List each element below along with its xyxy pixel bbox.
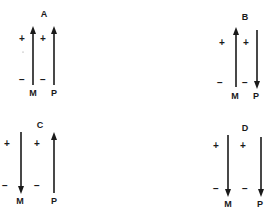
- panel-d: D + + − − M P: [213, 123, 264, 209]
- panel-title: C: [37, 120, 44, 130]
- minus-sign: −: [217, 77, 223, 88]
- arrow-down-icon: [254, 30, 260, 89]
- minus-sign: −: [242, 183, 248, 194]
- plus-sign: +: [213, 140, 219, 151]
- plus-sign: +: [34, 138, 40, 149]
- minus-sign: −: [213, 183, 219, 194]
- arrow-up-icon: [51, 132, 57, 193]
- plus-sign: +: [40, 33, 46, 44]
- plus-sign: +: [4, 138, 10, 149]
- arrow-label-m: M: [29, 88, 37, 98]
- arrow-down-icon: [225, 135, 231, 197]
- plus-sign: +: [219, 37, 225, 48]
- minus-sign: −: [34, 180, 40, 191]
- arrow-up-icon: [30, 26, 36, 85]
- polarity-diagram: A + + − − M P B + + − − M P: [0, 0, 268, 209]
- plus-sign: +: [240, 140, 246, 151]
- arrow-label-p: P: [51, 88, 57, 98]
- plus-sign: +: [243, 37, 249, 48]
- panel-title: D: [242, 123, 249, 133]
- panel-b: B + + − − M P: [217, 12, 260, 101]
- panel-c: C + + − − M P: [2, 120, 57, 206]
- arrow-up-icon: [233, 27, 239, 87]
- arrow-label-p: P: [253, 91, 259, 101]
- arrow-up-icon: [51, 26, 57, 85]
- minus-sign: −: [19, 74, 25, 85]
- arrow-label-m: M: [224, 199, 232, 209]
- arrow-label-m: M: [16, 196, 24, 206]
- speck: [22, 51, 23, 52]
- minus-sign: −: [242, 77, 248, 88]
- panel-a: A + + − − M P: [19, 9, 57, 98]
- arrow-label-p: P: [257, 199, 263, 209]
- minus-sign: −: [2, 180, 8, 191]
- panel-title: B: [242, 12, 249, 22]
- minus-sign: −: [40, 74, 46, 85]
- plus-sign: +: [19, 33, 25, 44]
- arrow-down-icon: [258, 137, 264, 197]
- arrow-label-m: M: [231, 91, 239, 101]
- arrow-down-icon: [18, 132, 24, 194]
- panel-title: A: [41, 9, 48, 19]
- arrow-label-p: P: [51, 196, 57, 206]
